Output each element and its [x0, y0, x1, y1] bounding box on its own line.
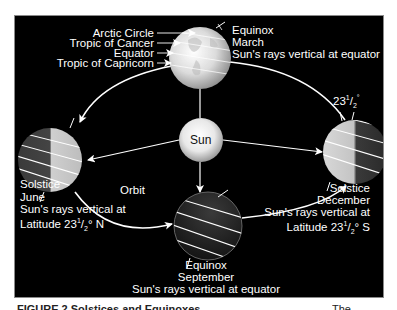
march-month-label: March — [232, 36, 264, 48]
figure-caption: FIGURE 2 Solstices and Equinoxes — [17, 302, 200, 310]
earth-december — [315, 110, 395, 191]
tropic-of-capricorn-label: Tropic of Capricorn — [30, 57, 154, 69]
june-latitude: Latitude 231/2° N — [20, 215, 104, 235]
orbit-label: Orbit — [120, 184, 145, 196]
june-month-label: June — [20, 191, 45, 203]
earth-september — [170, 190, 250, 268]
december-latitude: Latitude 231/2° S — [240, 218, 370, 238]
earth-march — [165, 22, 240, 89]
december-month-label: December — [240, 194, 370, 206]
june-description: Sun's rays vertical at — [20, 203, 126, 215]
september-description: Sun's rays vertical at equator — [100, 283, 312, 295]
march-description: Sun's rays vertical at equator — [232, 48, 380, 60]
sun-label: Sun — [190, 133, 211, 147]
september-event-label: Equinox — [100, 259, 312, 271]
june-event-label: Solstice — [20, 178, 60, 190]
tilt-angle-label: 231/2° — [333, 92, 360, 112]
december-event-label: Solstice — [240, 182, 370, 194]
march-event-label: Equinox — [232, 24, 274, 36]
caption-trailing-text: The — [332, 302, 351, 310]
september-month-label: September — [100, 271, 312, 283]
december-description: Sun's rays vertical at — [240, 206, 370, 218]
